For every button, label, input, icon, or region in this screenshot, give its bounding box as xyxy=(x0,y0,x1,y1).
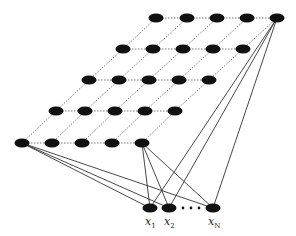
grid-line-diagonal xyxy=(179,49,213,80)
grid-line-diagonal xyxy=(89,49,123,80)
grid-line-diagonal xyxy=(112,111,145,143)
lattice-node xyxy=(172,76,187,85)
grid-line-diagonal xyxy=(115,80,149,111)
lattice-node xyxy=(240,14,255,23)
input-label-subscript: N xyxy=(214,222,220,230)
lattice-node xyxy=(149,14,164,23)
input-label-x2: x2 xyxy=(164,216,175,230)
input-label-x1: x1 xyxy=(145,216,156,230)
grid-line-diagonal xyxy=(209,49,243,80)
input-label-xN: xN xyxy=(208,216,220,230)
grid-line-diagonal xyxy=(153,18,187,49)
grid-line-diagonal xyxy=(52,111,85,143)
input-label-subscript: 2 xyxy=(170,222,174,230)
lattice-node xyxy=(49,107,64,116)
lattice-node xyxy=(82,76,97,85)
lattice-node xyxy=(210,14,225,23)
grid-line-diagonal xyxy=(56,80,89,111)
input-node-xN xyxy=(206,204,221,213)
lattice-node xyxy=(15,139,30,148)
lattice-node xyxy=(236,45,251,54)
connection-line xyxy=(22,143,150,208)
grid-line-diagonal xyxy=(22,111,56,143)
grid-line-diagonal xyxy=(175,80,209,111)
grid-line-diagonal xyxy=(213,18,247,49)
grid-line-diagonal xyxy=(82,111,115,143)
lattice-node xyxy=(146,45,161,54)
input-node-x1 xyxy=(143,204,158,213)
grid-line-diagonal xyxy=(149,49,183,80)
lattice-node xyxy=(135,139,150,148)
lattice-node xyxy=(108,107,123,116)
connection-line xyxy=(22,143,169,208)
lattice-node xyxy=(176,45,191,54)
ellipsis-dot xyxy=(190,207,193,210)
grid-line-diagonal xyxy=(119,49,153,80)
lattice-node xyxy=(202,76,217,85)
lattice-node xyxy=(138,107,153,116)
grid-line-diagonal xyxy=(123,18,156,49)
input-nodes xyxy=(143,204,221,213)
ellipsis-dot xyxy=(198,207,201,210)
ellipsis-dot xyxy=(182,207,185,210)
input-node-x2 xyxy=(162,204,177,213)
ellipsis-dots xyxy=(182,207,201,210)
lattice-node xyxy=(180,14,195,23)
input-label-subscript: 1 xyxy=(151,222,155,230)
grid-line-diagonal xyxy=(85,80,119,111)
lattice-node xyxy=(142,76,157,85)
lattice-node xyxy=(75,139,90,148)
lattice-node xyxy=(116,45,131,54)
grid-line-diagonal xyxy=(142,111,175,143)
lattice-nodes xyxy=(15,14,285,148)
som-lattice-diagram xyxy=(0,0,296,236)
lattice-node xyxy=(105,139,120,148)
lattice-node xyxy=(45,139,60,148)
lattice-node xyxy=(270,14,285,23)
grid-line-diagonal xyxy=(145,80,179,111)
grid-line-diagonal xyxy=(183,18,217,49)
connection-line xyxy=(22,143,213,208)
lattice-node xyxy=(168,107,183,116)
lattice-node xyxy=(78,107,93,116)
lattice-node xyxy=(206,45,221,54)
lattice-node xyxy=(112,76,127,85)
connection-line xyxy=(142,143,213,208)
